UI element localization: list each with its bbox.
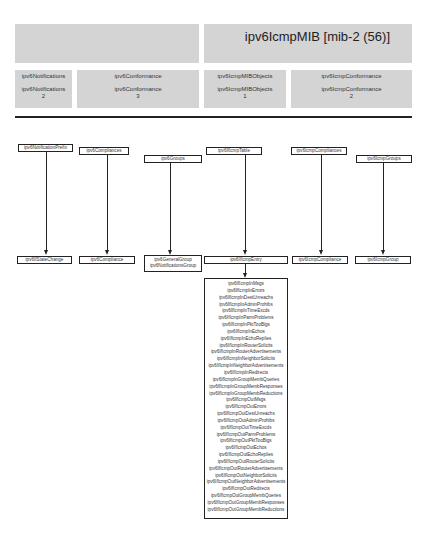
connector-line [383, 163, 384, 252]
cell-label: ipv6Notifications [15, 73, 72, 80]
list-item[interactable]: ipv6IfIcmpInTimeExcds [205, 308, 287, 315]
list-item[interactable]: ipv6IfIcmpInEchoReplies [205, 336, 287, 343]
connector-line [46, 152, 47, 252]
node-ipv6-if-icmp-entry[interactable]: ipv6IfIcmpEntry [204, 256, 288, 264]
list-item[interactable]: ipv6IfIcmpOutRouterSolicits [205, 459, 287, 466]
list-item[interactable]: ipv6IfIcmpInGroupMembQueries [205, 377, 287, 384]
cell-number: 2 [42, 93, 45, 99]
header-cell-ipv6-conformance[interactable]: ipv6Conformance ipv6Conformance 3 [77, 70, 199, 108]
node-ipv6-groups[interactable]: ipv6Groups [144, 155, 202, 163]
connector-line [321, 155, 322, 252]
cell-label: ipv6Conformance [77, 73, 199, 80]
list-item[interactable]: ipv6IfIcmpOutPktTooBigs [205, 438, 287, 445]
arrow-down-icon [243, 250, 247, 255]
arrow-down-icon [105, 250, 109, 255]
list-item[interactable]: ipv6IfIcmpInPktTooBigs [205, 322, 287, 329]
node-ipv6-icmp-compliances[interactable]: ipv6IcmpCompliances [291, 147, 347, 155]
arrow-down-icon [319, 250, 323, 255]
list-item[interactable]: ipv6IfIcmpInDestUnreachs [205, 295, 287, 302]
list-item[interactable]: ipv6IfIcmpOutDestUnreachs [205, 411, 287, 418]
list-item[interactable]: ipv6IfIcmpInGroupMembResponses [205, 384, 287, 391]
node-ipv6-notification-prefix[interactable]: ipv6NotificationPrefix [18, 144, 73, 152]
list-item[interactable]: ipv6IfIcmpInNeighborAdvertisements [205, 363, 287, 370]
node-ipv6-icmp-compliance[interactable]: ipv6IcmpCompliance [292, 256, 348, 264]
list-item[interactable]: ipv6IfIcmpOutTimeExcds [205, 425, 287, 432]
cell-sub-label: ipv6IcmpMIBObjects [204, 86, 286, 93]
connector-line [170, 163, 171, 252]
list-item[interactable]: ipv6IfIcmpOutRouterAdvertisements [205, 466, 287, 473]
list-item[interactable]: ipv6IfIcmpOutMsgs [205, 397, 287, 404]
list-item[interactable]: ipv6IfIcmpInParmProblems [205, 315, 287, 322]
list-item[interactable]: ipv6IfIcmpInRouterSolicits [205, 343, 287, 350]
list-item[interactable]: ipv6IfIcmpOutNeighborAdvertisements [205, 479, 287, 486]
list-item[interactable]: ipv6IfIcmpInAdminProhibs [205, 302, 287, 309]
list-item[interactable]: ipv6IfIcmpOutEchos [205, 445, 287, 452]
node-ipv6-notifications-group[interactable]: ipv6NotificationsGroup [145, 263, 201, 269]
list-item[interactable]: ipv6IfIcmpOutEchoReplies [205, 452, 287, 459]
cell-number: 2 [350, 93, 353, 99]
connector-line [245, 155, 246, 252]
node-ipv6-compliances[interactable]: ipv6Compliances [79, 147, 129, 155]
list-item[interactable]: ipv6IfIcmpInRouterAdvertisements [205, 349, 287, 356]
header-divider [15, 116, 412, 118]
list-item[interactable]: ipv6IfIcmpOutErrors [205, 404, 287, 411]
list-item[interactable]: ipv6IfIcmpOutAdminProhibs [205, 418, 287, 425]
header-cell-ipv6-icmp-mib-objects[interactable]: ipv6IcmpMIBObjects ipv6IcmpMIBObjects 1 [204, 70, 286, 108]
node-ipv6-if-icmp-table[interactable]: ipv6IfIcmpTable [206, 147, 262, 155]
node-ipv6-if-state-change[interactable]: ipv6IfStateChange [17, 256, 72, 264]
cell-number: 3 [136, 93, 139, 99]
list-item[interactable]: ipv6IfIcmpInEchos [205, 329, 287, 336]
list-item[interactable]: ipv6IfIcmpInMsgs [205, 281, 287, 288]
list-item[interactable]: ipv6IfIcmpOutGroupMembReductions [205, 507, 287, 514]
cell-sub-label: ipv6IcmpConformance [291, 86, 412, 93]
list-item[interactable]: ipv6IfIcmpOutNeighborSolicits [205, 473, 287, 480]
node-ipv6-icmp-groups[interactable]: ipv6IcmpGroups [356, 155, 412, 163]
arrow-down-icon [44, 250, 48, 255]
connector-line [107, 155, 108, 252]
list-item[interactable]: ipv6IfIcmpOutGroupMembQueries [205, 493, 287, 500]
entry-columns-list: ipv6IfIcmpInMsgs ipv6IfIcmpInErrors ipv6… [204, 278, 288, 519]
header-left-block [15, 24, 199, 63]
cell-sub-label: ipv6Notifications [15, 86, 72, 93]
list-item[interactable]: ipv6IfIcmpInRedirects [205, 370, 287, 377]
list-item[interactable]: ipv6IfIcmpOutParmProblems [205, 432, 287, 439]
list-item[interactable]: ipv6IfIcmpInErrors [205, 288, 287, 295]
header-cell-ipv6-icmp-conformance[interactable]: ipv6IcmpConformance ipv6IcmpConformance … [291, 70, 412, 108]
mib-title: ipv6IcmpMIB [mib-2 (56)] [204, 24, 412, 63]
list-item[interactable]: ipv6IfIcmpInGroupMembReductions [205, 391, 287, 398]
cell-number: 1 [243, 93, 246, 99]
arrow-down-icon [381, 250, 385, 255]
cell-label: ipv6IcmpMIBObjects [204, 73, 286, 80]
node-ipv6-icmp-group[interactable]: ipv6IcmpGroup [355, 256, 411, 264]
list-item[interactable]: ipv6IfIcmpOutGroupMembResponses [205, 500, 287, 507]
list-item[interactable]: ipv6IfIcmpOutRedirects [205, 486, 287, 493]
node-ipv6-compliance[interactable]: ipv6Compliance [79, 256, 135, 264]
cell-sub-label: ipv6Conformance [77, 86, 199, 93]
header-cell-ipv6-notifications[interactable]: ipv6Notifications ipv6Notifications 2 [15, 70, 72, 108]
node-ipv6-groups-members[interactable]: ipv6GeneralGroup ipv6NotificationsGroup [144, 255, 202, 272]
list-item[interactable]: ipv6IfIcmpInNeighborSolicits [205, 356, 287, 363]
cell-label: ipv6IcmpConformance [291, 73, 412, 80]
